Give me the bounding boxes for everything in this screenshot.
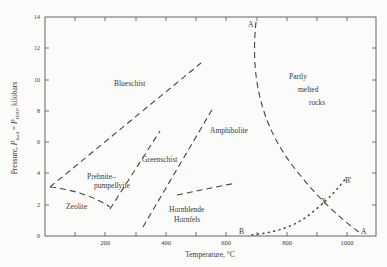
facies-boundaries <box>50 22 360 233</box>
svg-text:1000: 1000 <box>341 239 354 246</box>
region-labels: Blueschist Prehnite– pumpellyite Zeolite… <box>66 72 325 224</box>
y-axis-title: Pressure, Pload = PH2O, kilobars <box>10 82 20 175</box>
svg-text:400: 400 <box>161 239 171 246</box>
marker-A-bottom: A <box>361 227 367 236</box>
svg-text:4: 4 <box>37 170 40 176</box>
marker-B-right: B' <box>345 176 352 185</box>
label-hornfels: Hornfels <box>174 215 200 224</box>
svg-text:12: 12 <box>34 45 40 51</box>
label-blueschist: Blueschist <box>114 79 146 88</box>
svg-text:8: 8 <box>37 108 40 114</box>
y-tick-labels: 0 2 4 6 8 10 12 14 <box>34 14 40 239</box>
amphibolite-hornfels-boundary <box>177 183 236 195</box>
curve-markers: A A B B' X <box>239 20 367 236</box>
x-tick-labels: 200 400 600 800 1000 <box>100 239 353 246</box>
curve-A <box>255 22 360 233</box>
label-amphibolite: Amphibolite <box>210 126 249 135</box>
marker-A-top: A <box>248 20 254 29</box>
label-melted: melted <box>298 85 319 94</box>
label-prehnite-2: pumpellyite <box>94 181 130 190</box>
svg-text:2: 2 <box>37 202 40 208</box>
curve-B <box>252 178 346 235</box>
label-partly: Partly <box>289 72 307 81</box>
x-axis-title: Temperature, °C <box>185 250 235 259</box>
label-zeolite: Zeolite <box>66 202 88 211</box>
marker-X: X <box>321 197 327 206</box>
svg-text:6: 6 <box>37 139 40 145</box>
svg-text:800: 800 <box>282 239 292 246</box>
label-hornblende: Hornblende <box>169 205 205 214</box>
label-greenschist: Greenschist <box>142 155 178 164</box>
svg-text:0: 0 <box>37 233 40 239</box>
svg-text:10: 10 <box>34 77 40 83</box>
label-rocks: rocks <box>309 98 325 107</box>
marker-B-left: B <box>239 227 244 236</box>
facies-diagram: 0 2 4 6 8 10 12 14 200 400 600 800 1000 … <box>0 0 387 267</box>
prehnite-greenschist-boundary <box>110 131 160 209</box>
svg-text:200: 200 <box>100 239 110 246</box>
svg-text:14: 14 <box>34 14 40 20</box>
svg-text:600: 600 <box>221 239 231 246</box>
label-prehnite-1: Prehnite– <box>87 172 116 181</box>
